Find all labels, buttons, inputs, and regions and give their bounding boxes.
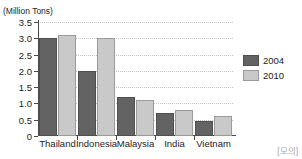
plot-area: 00.51.01.52.02.53.03.5 [38, 22, 233, 136]
bar-thailand-2010 [58, 35, 76, 136]
legend: 20042010 [243, 53, 284, 83]
source-marker: [모의] [277, 144, 298, 156]
bar-vietnam-2004 [195, 121, 213, 136]
bar-malaysia-2010 [136, 100, 154, 136]
y-tick-label: 3.5 [19, 17, 32, 28]
legend-label-2010: 2010 [263, 70, 284, 81]
legend-label-2004: 2004 [263, 55, 284, 66]
bar-vietnam-2010 [214, 116, 232, 136]
bar-indonesia-2004 [78, 71, 96, 136]
y-tick-mark [34, 136, 38, 137]
legend-swatch-2004 [243, 55, 259, 66]
x-axis-label-thailand: Thailand [39, 138, 75, 149]
y-tick-label: 2.5 [19, 49, 32, 60]
bar-india-2010 [175, 110, 193, 136]
bar-thailand-2004 [39, 38, 57, 136]
legend-swatch-2010 [243, 70, 259, 81]
x-axis-label-indonesia: Indonesia [76, 138, 117, 149]
legend-item-2010: 2010 [243, 68, 284, 83]
x-tick-mark [194, 136, 195, 140]
x-axis-label-india: India [164, 138, 185, 149]
x-axis-label-vietnam: Vietnam [196, 138, 231, 149]
y-tick-label: 1.0 [19, 98, 32, 109]
x-axis-label-malaysia: Malaysia [117, 138, 155, 149]
bars-group [38, 22, 233, 136]
y-tick-label: 2.0 [19, 65, 32, 76]
y-axis-unit-label: (Million Tons) [3, 6, 53, 16]
bar-india-2004 [156, 113, 174, 136]
bar-chart-figure: (Million Tons) 00.51.01.52.02.53.03.5 Th… [0, 0, 302, 159]
bar-indonesia-2010 [97, 38, 115, 136]
y-tick-label: 3.0 [19, 33, 32, 44]
y-tick-label: 1.5 [19, 82, 32, 93]
y-tick-label: 0.5 [19, 114, 32, 125]
bar-malaysia-2004 [117, 97, 135, 136]
x-tick-mark [155, 136, 156, 140]
legend-item-2004: 2004 [243, 53, 284, 68]
y-tick-label: 0 [27, 131, 32, 142]
